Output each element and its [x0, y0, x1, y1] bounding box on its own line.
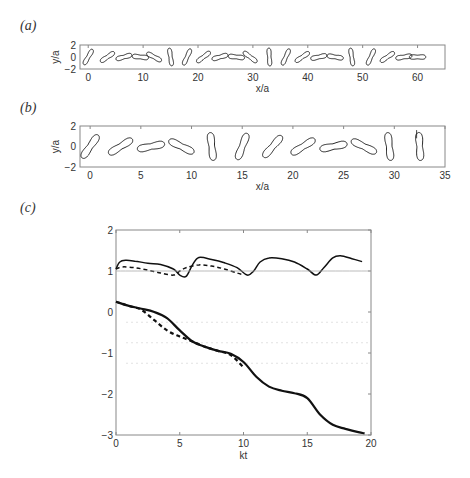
tick-label: 0 [70, 141, 76, 152]
tick-label: 2 [107, 225, 113, 236]
y-axis-label: y/a [50, 50, 61, 64]
tick-label: 15 [302, 438, 314, 449]
particle-shape [349, 48, 355, 66]
particle-shape [263, 135, 283, 157]
tick-label: 10 [238, 438, 250, 449]
figure-canvas: 010203040506020−2x/ay/a0510152025303520−… [0, 0, 470, 478]
particle-shape [351, 139, 376, 154]
tick-label: −2 [102, 389, 114, 400]
tick-label: 0 [70, 52, 76, 63]
particle-shape [132, 54, 148, 60]
particle-shape [83, 49, 93, 65]
x-axis-label: x/a [256, 83, 270, 94]
tick-label: 0 [107, 307, 113, 318]
particle-shape [281, 49, 290, 65]
tick-label: 30 [389, 170, 401, 181]
particle-shape [235, 133, 249, 159]
particle-shape [295, 52, 309, 63]
tick-label: 60 [412, 72, 424, 83]
tick-label: −3 [102, 430, 114, 441]
tick-label: −1 [102, 348, 114, 359]
particle-shape [267, 48, 272, 66]
tick-label: 20 [365, 438, 377, 449]
tick-label: 5 [138, 170, 144, 181]
particle-shape [182, 49, 191, 65]
series-lower-solid [116, 302, 365, 434]
tick-label: 20 [287, 170, 299, 181]
axes-a [80, 45, 445, 69]
y-axis-label: y/a [50, 139, 61, 153]
tick-label: 50 [357, 72, 369, 83]
tick-label: 40 [302, 72, 314, 83]
tick-label: −2 [65, 162, 77, 173]
particle-shape [207, 133, 216, 161]
particle-shape [212, 53, 228, 60]
particle-shape [243, 51, 257, 63]
tick-label: 35 [439, 170, 451, 181]
tick-label: 0 [85, 72, 91, 83]
plot-frame [80, 45, 445, 69]
tick-label: 0 [87, 170, 93, 181]
particle-shape [385, 133, 394, 161]
plot-frame [80, 126, 445, 167]
tick-label: 1 [107, 266, 113, 277]
tick-label: 25 [338, 170, 350, 181]
particle-shape [197, 51, 211, 63]
x-axis-label: x/a [256, 181, 270, 192]
particle-shape [137, 141, 164, 152]
tick-label: 20 [192, 72, 204, 83]
tick-label: −2 [65, 64, 77, 75]
tick-label: 15 [237, 170, 249, 181]
axes-c [116, 230, 371, 435]
x-axis-label: kt [240, 450, 248, 461]
particle-shape [116, 53, 132, 60]
particle-shape [380, 52, 394, 63]
particle-shape [108, 138, 132, 155]
particle-shape [366, 49, 375, 65]
particle-shape [320, 141, 347, 152]
tick-label: 2 [70, 40, 76, 51]
series-lower-dashed [116, 302, 244, 368]
particle-shape [100, 52, 114, 63]
tick-label: 10 [186, 170, 198, 181]
tick-label: 0 [113, 438, 119, 449]
tick-label: 30 [247, 72, 259, 83]
tick-label: 5 [177, 438, 183, 449]
series-upper-dashed [116, 265, 244, 275]
particle-shape [169, 139, 194, 154]
plot-frame [116, 230, 371, 435]
particle-shape [228, 54, 244, 60]
axes-b [80, 126, 445, 167]
tick-label: 2 [70, 121, 76, 132]
particle-shape [147, 52, 162, 62]
particle-shape [291, 138, 315, 155]
particle-shape [81, 135, 99, 159]
particle-shape [327, 54, 343, 60]
particle-shape [311, 54, 327, 61]
particle-shape [168, 48, 174, 66]
tick-label: 10 [138, 72, 150, 83]
